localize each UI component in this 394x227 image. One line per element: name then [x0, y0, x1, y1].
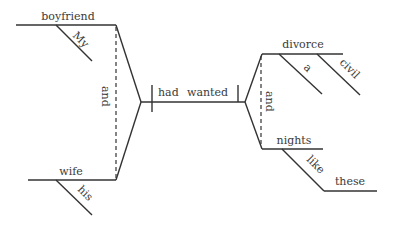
word-boyfriend: boyfriend [41, 10, 94, 23]
preposition-like: like [304, 153, 327, 176]
modifier-my: My [70, 29, 92, 51]
verb-auxiliary-had: had [158, 86, 179, 99]
subject-wife: wife his [28, 165, 116, 215]
object-fork: and [245, 54, 276, 149]
prep-object-these: these [335, 175, 365, 188]
modifier-a: a [301, 61, 315, 75]
subject-fork: and [99, 25, 141, 180]
word-divorce: divorce [282, 38, 323, 51]
word-wife: wife [59, 165, 83, 178]
subject-boyfriend: boyfriend My [16, 10, 116, 61]
verb-baseline: had wanted [141, 85, 245, 112]
subject-conjunction-and: and [99, 86, 112, 107]
modifier-civil: civil [337, 56, 363, 82]
object-nights: nights like these [262, 134, 377, 191]
object-divorce: divorce a civil [262, 38, 363, 95]
object-conjunction-and: and [263, 91, 276, 112]
verb-main-wanted: wanted [187, 86, 228, 99]
word-nights: nights [277, 134, 312, 147]
sentence-diagram: boyfriend My wife his and had wanted and… [0, 0, 394, 227]
